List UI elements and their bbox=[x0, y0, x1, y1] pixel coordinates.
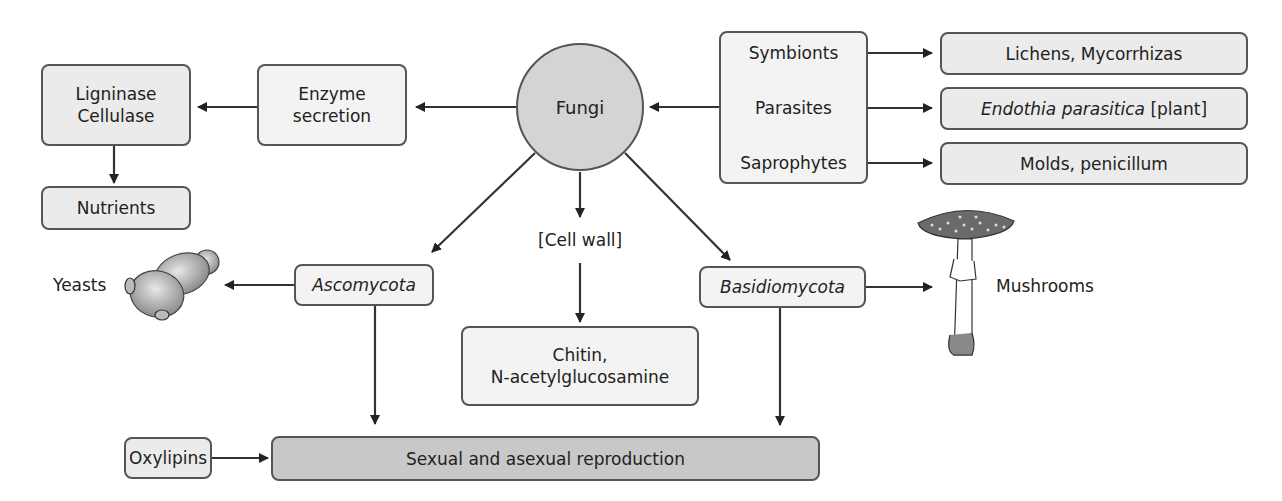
mushrooms-label: Mushrooms bbox=[996, 276, 1094, 296]
reproduction-label: Sexual and asexual reproduction bbox=[406, 448, 685, 470]
reproduction-box: Sexual and asexual reproduction bbox=[271, 436, 820, 481]
chitin-label: Chitin, bbox=[553, 344, 608, 366]
n-acetylglucosamine-label: N-acetylglucosamine bbox=[491, 366, 669, 388]
ligninase-label: Ligninase bbox=[76, 83, 157, 105]
ligninase-cellulase-box: Ligninase Cellulase bbox=[41, 64, 191, 146]
fungi-circle: Fungi bbox=[516, 43, 644, 171]
endothia-box: Endothia parasitica [plant] bbox=[940, 87, 1248, 130]
ascomycota-box: Ascomycota bbox=[294, 264, 434, 306]
molds-label: Molds, penicillum bbox=[1020, 153, 1168, 175]
lichens-label: Lichens, Mycorrhizas bbox=[1006, 43, 1183, 65]
cellulase-label: Cellulase bbox=[77, 105, 154, 127]
basidiomycota-label: Basidiomycota bbox=[720, 276, 845, 298]
symbionts-label: Symbionts bbox=[721, 43, 866, 63]
saprophytes-label: Saprophytes bbox=[721, 153, 866, 173]
oxylipins-label: Oxylipins bbox=[129, 447, 207, 469]
ascomycota-label: Ascomycota bbox=[312, 274, 416, 296]
cell-wall-label: [Cell wall] bbox=[538, 230, 622, 250]
lichens-box: Lichens, Mycorrhizas bbox=[940, 32, 1248, 75]
parasites-label: Parasites bbox=[721, 98, 866, 118]
nutrients-box: Nutrients bbox=[41, 186, 191, 230]
enzyme-label: Enzyme bbox=[298, 83, 366, 105]
fungi-types-box: Symbionts Parasites Saprophytes bbox=[719, 31, 868, 184]
secretion-label: secretion bbox=[293, 105, 371, 127]
molds-box: Molds, penicillum bbox=[940, 142, 1248, 185]
enzyme-secretion-box: Enzyme secretion bbox=[257, 64, 407, 146]
yeasts-label: Yeasts bbox=[53, 275, 106, 295]
basidiomycota-box: Basidiomycota bbox=[699, 266, 866, 308]
oxylipins-box: Oxylipins bbox=[124, 437, 212, 479]
fungi-label: Fungi bbox=[556, 97, 605, 118]
yeast-cells-icon bbox=[120, 244, 225, 324]
plant-label: [plant] bbox=[1145, 98, 1207, 120]
endothia-label: Endothia parasitica bbox=[981, 98, 1145, 120]
chitin-box: Chitin, N-acetylglucosamine bbox=[461, 326, 699, 406]
nutrients-label: Nutrients bbox=[77, 197, 156, 219]
